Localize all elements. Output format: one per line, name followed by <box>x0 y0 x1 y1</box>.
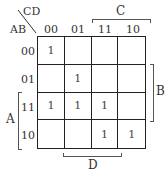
row-header: 10 <box>21 130 35 141</box>
bracket-b <box>150 64 154 122</box>
cell: 1 <box>65 65 92 93</box>
cell <box>65 120 92 148</box>
col-variable-label: CD <box>23 6 40 17</box>
cell <box>92 65 119 93</box>
bracket-label-b: B <box>156 86 165 97</box>
cell <box>118 65 145 93</box>
cell: 1 <box>118 120 145 148</box>
bracket-label-c: C <box>116 6 125 17</box>
cell: 1 <box>38 37 65 65</box>
col-header: 00 <box>44 24 58 35</box>
kmap-grid: 1 1 1 1 1 1 1 <box>37 36 146 149</box>
bracket-label-d: D <box>88 160 98 171</box>
bracket-d <box>63 153 122 157</box>
bracket-c <box>92 19 151 23</box>
cell: 1 <box>92 120 119 148</box>
cell <box>65 37 92 65</box>
col-header: 10 <box>126 24 140 35</box>
col-header: 11 <box>98 24 112 35</box>
col-header: 01 <box>71 24 85 35</box>
cell: 1 <box>65 93 92 121</box>
cell: 1 <box>92 93 119 121</box>
row-header: 11 <box>21 102 35 113</box>
cell <box>118 93 145 121</box>
bracket-a <box>18 92 22 150</box>
cell <box>92 37 119 65</box>
bracket-label-a: A <box>6 114 15 125</box>
row-variable-label: AB <box>10 24 26 35</box>
cell: 1 <box>38 93 65 121</box>
cell <box>118 37 145 65</box>
cell <box>38 65 65 93</box>
row-header: 01 <box>21 74 35 85</box>
cell <box>38 120 65 148</box>
row-header: 00 <box>21 46 35 57</box>
